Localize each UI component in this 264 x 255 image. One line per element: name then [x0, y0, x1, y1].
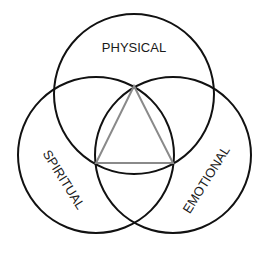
- physical-circle: [54, 14, 214, 174]
- venn-diagram: PHYSICAL SPIRITUAL EMOTIONAL: [0, 0, 264, 255]
- physical-label: PHYSICAL: [102, 40, 166, 55]
- spiritual-label: SPIRITUAL: [40, 147, 88, 212]
- center-triangle: [96, 86, 173, 163]
